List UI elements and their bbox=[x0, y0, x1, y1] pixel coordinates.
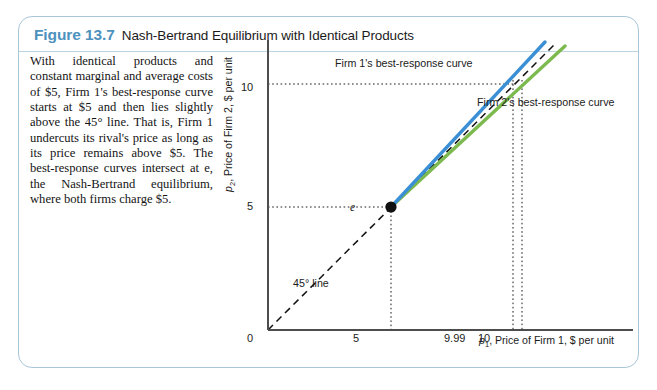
firm2-best-response-curve bbox=[391, 46, 565, 207]
y-axis-label-text: , Price of Firm 2, $ per unit bbox=[222, 57, 234, 182]
x-tick-label-10: 10 bbox=[478, 332, 490, 344]
x-axis-label: p1, Price of Firm 1, $ per unit bbox=[479, 334, 614, 349]
y-axis-label: p2, Price of Firm 2, $ per unit bbox=[222, 57, 237, 192]
y-axis-symbol: p bbox=[222, 186, 234, 192]
figure-caption: With identical products and constant mar… bbox=[30, 54, 213, 207]
x-tick-label-5: 5 bbox=[353, 332, 359, 344]
chart-svg bbox=[225, 40, 635, 360]
y-axis-subscript: 2 bbox=[228, 182, 237, 186]
firm1-curve-label: Firm 1's best-response curve bbox=[335, 57, 472, 69]
equilibrium-point-marker bbox=[385, 201, 396, 212]
figure-number: Figure 13.7 bbox=[34, 26, 115, 44]
y-tick-label-10: 10 bbox=[241, 81, 253, 93]
forty-five-degree-label: 45° line bbox=[293, 277, 329, 289]
figure-root: Figure 13.7 Nash-Bertrand Equilibrium wi… bbox=[0, 0, 657, 390]
x-axis-label-text: , Price of Firm 1, $ per unit bbox=[489, 334, 614, 346]
equilibrium-point-label: e bbox=[350, 201, 355, 213]
origin-tick-label: 0 bbox=[247, 332, 253, 344]
y-tick-label-5: 5 bbox=[247, 200, 253, 212]
firm2-curve-label: Firm 2's best-response curve bbox=[477, 96, 614, 108]
x-tick-label-999: 9.99 bbox=[444, 332, 465, 344]
chart-plot-area: p2, Price of Firm 2, $ per unit p1, Pric… bbox=[225, 40, 635, 360]
